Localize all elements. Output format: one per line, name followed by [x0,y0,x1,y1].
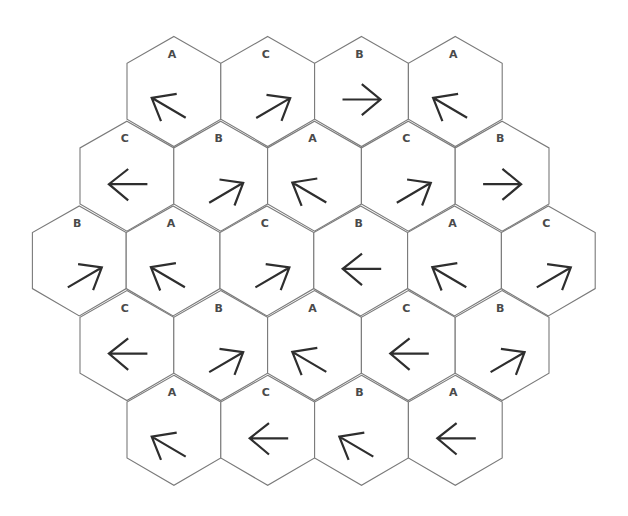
hex-label: A [449,386,458,399]
hex-label: C [262,386,270,399]
hex-label: C [262,48,270,61]
hex-label: C [402,302,410,315]
hex-label: A [167,217,176,230]
hex-label: A [448,217,457,230]
hex-label: B [355,217,363,230]
hex-grid-canvas: ACBACBACBBACBACCBACBACBA [0,0,628,516]
hex-label: A [308,302,317,315]
hex-label: B [215,302,223,315]
hex-label: B [215,132,223,145]
hex-label: B [73,217,81,230]
hex-label: B [355,386,363,399]
hex-row: CBACB [80,291,549,401]
hex-label: C [542,217,550,230]
hex-label: B [355,48,363,61]
hex-row: CBACB [80,121,549,231]
hex-label: C [121,302,129,315]
hex-grid-diagram: ACBACBACBBACBACCBACBACBA [0,0,628,516]
hex-label: B [496,132,504,145]
hex-label: C [402,132,410,145]
hex-label: A [308,132,317,145]
hex-label: C [121,132,129,145]
hex-label: B [496,302,504,315]
hex-label: C [261,217,269,230]
hex-label: A [449,48,458,61]
hex-label: A [168,386,177,399]
hex-label: A [168,48,177,61]
